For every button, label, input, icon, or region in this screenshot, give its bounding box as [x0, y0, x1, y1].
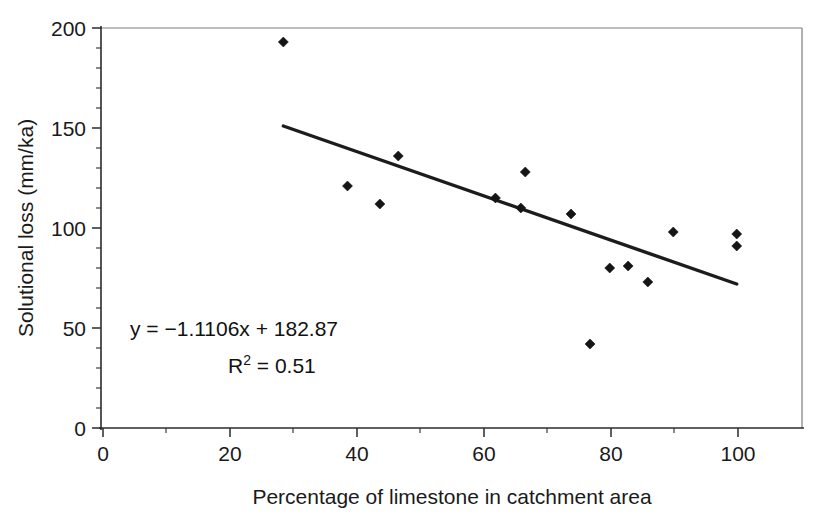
- chart-canvas: 200 150 100 50 0 0 20 40 60 80 100: [0, 0, 830, 519]
- x-tick-label-60: 60: [472, 442, 495, 465]
- scatter-point: [342, 181, 352, 191]
- y-tick-label-200: 200: [51, 17, 86, 40]
- r-squared-prefix: R: [228, 354, 243, 377]
- r-squared-text: R2 = 0.51: [228, 352, 316, 377]
- x-axis-title: Percentage of limestone in catchment are…: [252, 485, 652, 508]
- r-squared-exponent: 2: [243, 352, 251, 368]
- y-tick-label-50: 50: [63, 317, 86, 340]
- y-tick-label-0: 0: [74, 417, 86, 440]
- regression-trendline: [283, 126, 736, 284]
- x-tick-group: 0 20 40 60 80 100: [97, 428, 755, 465]
- scatter-point: [623, 261, 633, 271]
- scatter-points-layer: [278, 37, 741, 349]
- plot-frame: [101, 28, 802, 428]
- x-tick-label-0: 0: [97, 442, 109, 465]
- y-tick-label-150: 150: [51, 117, 86, 140]
- y-tick-label-100: 100: [51, 217, 86, 240]
- y-axis-title: Solutional loss (mm/ka): [14, 119, 37, 337]
- x-tick-label-20: 20: [218, 442, 241, 465]
- x-tick-label-80: 80: [599, 442, 622, 465]
- scatter-point: [668, 227, 678, 237]
- regression-annotation: y = −1.1106x + 182.87 R2 = 0.51: [130, 317, 338, 377]
- scatter-point: [520, 167, 530, 177]
- scatter-point: [278, 37, 288, 47]
- scatter-point: [643, 277, 653, 287]
- scatter-point: [605, 263, 615, 273]
- scatter-chart-figure: 200 150 100 50 0 0 20 40 60 80 100: [0, 0, 830, 519]
- regression-equation-text: y = −1.1106x + 182.87: [130, 317, 338, 340]
- scatter-point: [585, 339, 595, 349]
- r-squared-value: = 0.51: [251, 354, 316, 377]
- scatter-point: [393, 151, 403, 161]
- scatter-point: [566, 209, 576, 219]
- trend-line-group: [283, 126, 736, 284]
- scatter-point: [732, 229, 742, 239]
- scatter-point: [732, 241, 742, 251]
- x-tick-label-100: 100: [720, 442, 755, 465]
- scatter-point: [375, 199, 385, 209]
- y-tick-group: 200 150 100 50 0: [51, 17, 101, 440]
- x-tick-label-40: 40: [345, 442, 368, 465]
